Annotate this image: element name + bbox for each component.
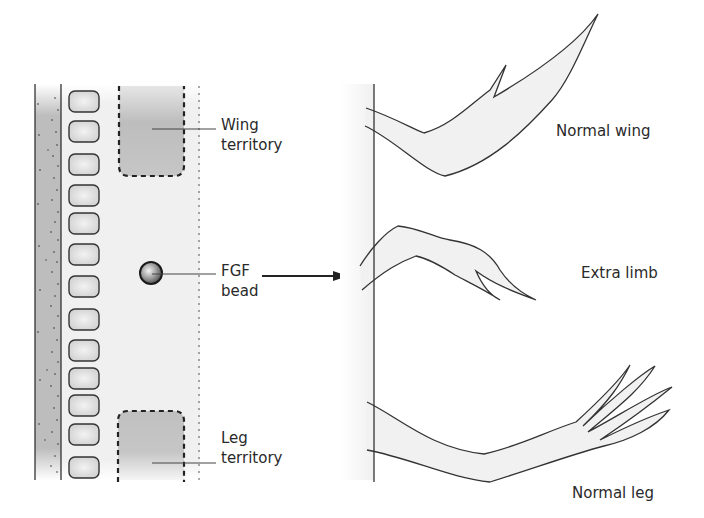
fgf-bead-label-line1: FGF	[221, 261, 258, 281]
fgf-bead-label: FGF bead	[221, 261, 258, 301]
somite	[69, 395, 99, 416]
wing-territory-region	[119, 86, 184, 176]
somite	[69, 154, 99, 175]
somite	[69, 340, 99, 361]
wing-territory-label: Wing territory	[221, 115, 282, 155]
leg-territory-label-line1: Leg	[221, 428, 282, 448]
fgf-bead	[140, 262, 162, 284]
somite	[69, 185, 99, 206]
somite	[69, 121, 99, 142]
somite	[69, 424, 99, 445]
somite	[69, 213, 99, 234]
leg-territory-region	[118, 411, 184, 482]
leg-territory-label: Leg territory	[221, 428, 282, 468]
normal-wing-drawing	[365, 14, 598, 176]
somite	[69, 91, 99, 112]
arrow-icon	[262, 271, 348, 281]
normal-leg-drawing	[367, 365, 672, 482]
extra-limb-label: Extra limb	[581, 263, 658, 283]
somite	[69, 276, 99, 297]
somite	[69, 457, 99, 478]
wing-territory-label-line1: Wing	[221, 115, 282, 135]
extra-limb-drawing	[360, 226, 536, 300]
normal-wing-label: Normal wing	[556, 121, 651, 141]
somite	[69, 368, 99, 389]
somite	[69, 309, 99, 330]
limb-induction-diagram	[0, 0, 704, 518]
leg-territory-label-line2: territory	[221, 448, 282, 468]
embryo	[35, 84, 200, 482]
normal-leg-label: Normal leg	[572, 483, 654, 503]
wing-territory-label-line2: territory	[221, 135, 282, 155]
somite	[69, 244, 99, 265]
fgf-bead-label-line2: bead	[221, 281, 258, 301]
